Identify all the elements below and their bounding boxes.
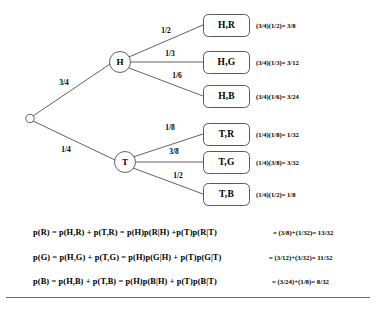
outcome-label-HR: H,R [218,21,235,31]
equation-result-G: = (3/12)+(3/32)= 11/32 [269,254,332,261]
outcome-label-TR: T,R [219,130,234,140]
outcome-calc-HB: (3/4)(1/6)= 3/24 [256,93,299,100]
branch-T-to-TB [133,168,203,194]
branch-label-H-HG: 1/3 [165,50,175,58]
branch-label-root-T: 1/4 [61,146,71,154]
outcome-calc-TR: (1/4)(1/8)= 1/32 [256,131,299,138]
node-label-T: T [122,158,128,167]
equation-row-G: p(G) = p(H,G) + p(T,G) = p(H)p(G|H) + p(… [33,253,221,262]
outcome-label-HB: H,B [218,92,235,102]
branch-root-to-T [33,121,115,160]
outcome-calc-HR: (3/4)(1/2)= 3/8 [256,22,295,29]
branch-label-T-TR: 1/8 [165,124,175,132]
equation-result-R: = (3/8)+(1/32)= 13/32 [273,229,333,236]
tree-graphics [0,0,376,309]
footer-divider [6,297,370,298]
outcome-calc-HG: (3/4)(1/3)= 3/12 [256,59,299,66]
node-label-H: H [116,58,123,67]
outcome-calc-TB: (1/4)(1/2)= 1/8 [256,191,295,198]
outcome-calc-TG: (1/4)(3/8)= 3/32 [256,159,299,166]
outcome-label-TB: T,B [219,190,234,200]
equation-row-B: p(B) = p(H,B) + p(T,B) = p(H)p(B|H) + p(… [33,277,217,286]
equation-result-B: = (3/24)+(1/8)= 8/32 [272,278,329,285]
branch-label-root-H: 3/4 [59,79,69,87]
branch-label-T-TB: 1/2 [173,172,183,180]
branch-label-H-HB: 1/6 [172,72,182,80]
branch-label-H-HR: 1/2 [161,27,171,35]
branch-H-to-HB [129,68,203,96]
outcome-label-TG: T,G [219,158,235,168]
outcome-label-HG: H,G [218,58,236,68]
branch-label-T-TG: 3/8 [169,148,179,156]
branch-root-to-H [33,64,110,116]
root-node-circle [26,114,34,122]
branch-T-to-TR [133,134,203,157]
equation-row-R: p(R) = p(H,R) + p(T,R) = p(H)p(R|H) +p(T… [33,228,217,237]
probability-tree-diagram: H T 3/4 1/4 1/2 1/3 1/6 1/8 3/8 1/2 H,R … [0,0,376,309]
